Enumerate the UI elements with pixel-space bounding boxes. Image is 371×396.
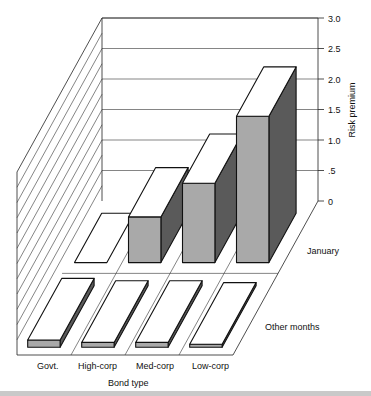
y-tick-label: 0 [328, 197, 333, 207]
bar-low-corp-other-months [190, 283, 256, 348]
y-tick-label: 3.0 [328, 14, 341, 24]
risk-premium-3d-bar-chart: 0.51.01.52.02.53.0 Risk premium January … [0, 0, 371, 392]
y-tick-label: .5 [328, 166, 336, 176]
y-axis-ticks: 0.51.01.52.02.53.0 [318, 14, 341, 207]
category-label-govt: Govt. [37, 361, 59, 371]
bottom-band [0, 391, 371, 396]
bar-med-corp-january [183, 134, 243, 263]
series-label-other-months: Other months [265, 322, 320, 332]
y-tick-label: 2.5 [328, 44, 341, 54]
y-tick-label: 1.0 [328, 136, 341, 146]
x-axis-label: Bond type [108, 378, 149, 388]
bar-low-corp-january [237, 67, 297, 263]
y-tick-label: 2.0 [328, 75, 341, 85]
category-label-med-corp: Med-corp [136, 361, 174, 371]
bar-high-corp-january [129, 168, 189, 263]
series-label-january: January [307, 246, 340, 256]
category-label-high-corp: High-corp [78, 361, 117, 371]
category-label-low-corp: Low-corp [192, 361, 229, 371]
bar-govt--january [75, 213, 135, 262]
y-axis-label: Risk premium [347, 82, 357, 137]
y-tick-label: 1.5 [328, 105, 341, 115]
bars [28, 67, 296, 347]
